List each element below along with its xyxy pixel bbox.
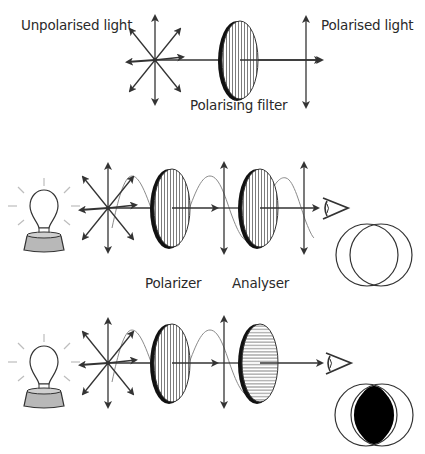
analyser-filter-icon	[238, 169, 278, 249]
diagram-graphics	[0, 0, 425, 454]
polarizer-label: Polarizer	[145, 275, 201, 291]
overlap-circles-clear-icon	[336, 224, 412, 286]
polarised-light-label: Polarised light	[321, 17, 413, 33]
polarising-filter-icon	[218, 21, 258, 101]
polarising-filter-label: Polarising filter	[190, 97, 287, 113]
overlap-circles-dark-icon	[335, 384, 413, 446]
analyser-label: Analyser	[232, 275, 289, 291]
panel-crossed-filters	[8, 317, 413, 446]
panel-single-filter	[127, 16, 322, 107]
analyser-crossed-filter-icon	[238, 324, 278, 404]
panel-parallel-filters	[8, 163, 412, 286]
polarizer-filter-icon	[150, 324, 190, 404]
eye-icon	[326, 353, 351, 374]
eye-icon	[323, 198, 348, 219]
polarizer-filter-icon	[150, 169, 190, 249]
polarisation-diagram: Unpolarised light Polarised light Polari…	[0, 0, 425, 454]
light-bulb-icon	[8, 178, 80, 252]
unpolarised-light-label: Unpolarised light	[21, 17, 132, 33]
light-bulb-icon	[8, 334, 80, 408]
